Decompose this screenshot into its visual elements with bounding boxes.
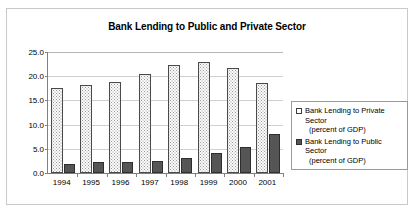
bar-private-sector — [168, 65, 180, 173]
chart-title: Bank Lending to Public and Private Secto… — [7, 21, 407, 32]
y-tick-label: 10.0 — [28, 120, 44, 129]
x-tick-label: 1996 — [112, 178, 130, 187]
bar-public-sector — [64, 164, 75, 173]
x-tick-label: 1998 — [170, 178, 188, 187]
legend-item-private: Bank Lending to Private Sector (percent … — [296, 106, 404, 135]
bar-public-sector — [269, 134, 280, 173]
x-tick-mark — [283, 173, 284, 177]
bar-private-sector — [80, 85, 92, 173]
bar-private-sector — [256, 83, 268, 173]
x-tick-label: 1995 — [82, 178, 100, 187]
bar-public-sector — [152, 161, 163, 173]
x-tick-label: 1999 — [200, 178, 218, 187]
bar-public-sector — [93, 162, 104, 173]
legend-swatch-public-icon — [296, 139, 302, 145]
bar-private-sector — [109, 82, 121, 173]
y-tick-label: 15.0 — [28, 96, 44, 105]
y-tick-label: 20.0 — [28, 72, 44, 81]
bar-public-sector — [122, 162, 133, 173]
bar-public-sector — [211, 153, 222, 173]
bar-public-sector — [181, 158, 192, 173]
bar-group — [224, 52, 253, 173]
bar-group — [254, 52, 283, 173]
bar-group — [48, 52, 77, 173]
legend-label-private-unit: (percent of GDP) — [305, 125, 404, 135]
y-tick-label: 5.0 — [33, 144, 44, 153]
legend-swatch-private-icon — [296, 108, 302, 114]
bar-private-sector — [227, 68, 239, 173]
x-tick-mark — [107, 173, 108, 177]
legend-label-public-unit: (percent of GDP) — [305, 156, 404, 166]
bar-group — [166, 52, 195, 173]
y-tick-label: 0.0 — [33, 169, 44, 178]
x-tick-label: 1997 — [141, 178, 159, 187]
chart-frame: Bank Lending to Public and Private Secto… — [6, 8, 408, 205]
x-tick-mark — [224, 173, 225, 177]
x-tick-mark — [254, 173, 255, 177]
x-tick-label: 2000 — [229, 178, 247, 187]
x-tick-label: 2001 — [258, 178, 276, 187]
chart-legend: Bank Lending to Private Sector (percent … — [291, 101, 408, 170]
x-tick-mark — [166, 173, 167, 177]
x-axis: 19941995199619971998199920002001 — [47, 178, 282, 192]
bar-private-sector — [51, 88, 63, 173]
bar-public-sector — [240, 147, 251, 173]
bar-private-sector — [198, 62, 210, 173]
x-tick-mark — [136, 173, 137, 177]
legend-item-public: Bank Lending to Public Sector (percent o… — [296, 137, 404, 166]
bar-group — [136, 52, 165, 173]
bar-group — [77, 52, 106, 173]
legend-label-public: Bank Lending to Public Sector (percent o… — [305, 137, 404, 166]
bar-private-sector — [139, 74, 151, 173]
x-tick-label: 1994 — [53, 178, 71, 187]
x-tick-mark — [77, 173, 78, 177]
legend-label-private-text: Bank Lending to Private Sector — [305, 106, 385, 125]
bar-group — [107, 52, 136, 173]
plot-area: 0.05.010.015.020.025.0 — [47, 52, 283, 174]
y-tick-label: 25.0 — [28, 48, 44, 57]
y-tick-mark — [45, 173, 48, 174]
x-tick-mark — [195, 173, 196, 177]
legend-label-private: Bank Lending to Private Sector (percent … — [305, 106, 404, 135]
bar-group — [195, 52, 224, 173]
legend-label-public-text: Bank Lending to Public Sector — [305, 137, 382, 156]
bar-series-container — [48, 52, 283, 173]
